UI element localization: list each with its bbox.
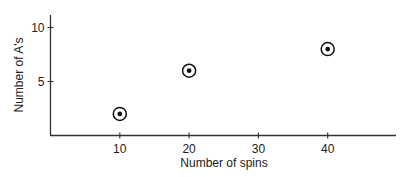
y-axis-label: Number of A's (12, 38, 26, 113)
x-tick-label: 10 (113, 142, 127, 156)
scatter-chart: 510 10203040 Number of spins Number of A… (0, 0, 412, 177)
data-points (113, 43, 334, 121)
x-tick-label: 20 (182, 142, 196, 156)
x-tick-label: 30 (252, 142, 266, 156)
x-tick-label: 40 (321, 142, 335, 156)
y-tick-label: 10 (31, 21, 45, 35)
data-point (113, 107, 126, 120)
y-tick-label: 5 (38, 75, 45, 89)
data-point (183, 64, 196, 77)
data-point (321, 43, 334, 56)
x-axis-label: Number of spins (180, 156, 267, 170)
